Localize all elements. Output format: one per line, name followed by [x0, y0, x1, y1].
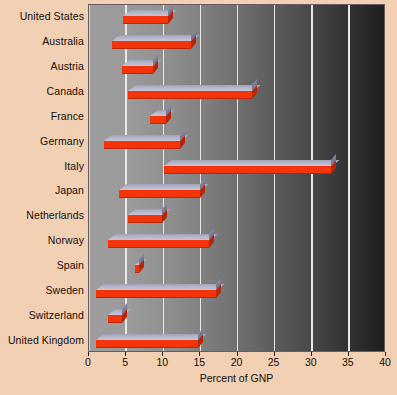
tick-label: 0	[85, 356, 91, 368]
category-label: Spain	[0, 259, 84, 271]
bar	[122, 61, 153, 70]
category-label: Germany	[0, 135, 84, 147]
bar-front-face	[122, 66, 153, 74]
tick-label: 25	[268, 356, 280, 368]
gridline-15	[200, 5, 202, 351]
plot-area	[88, 4, 385, 352]
category-label: Sweden	[0, 284, 84, 296]
category-label: Austria	[0, 60, 84, 72]
category-label: Norway	[0, 234, 84, 246]
tick-label: 10	[156, 356, 168, 368]
bar-front-face	[104, 141, 180, 149]
gridline-25	[274, 5, 276, 351]
tick-label: 5	[122, 356, 128, 368]
bar-front-face	[119, 190, 200, 198]
bar-front-face	[150, 116, 166, 124]
bar-front-face	[128, 215, 162, 223]
category-label: Italy	[0, 160, 84, 172]
tick-label: 15	[194, 356, 206, 368]
bar	[104, 136, 180, 145]
gridline-10	[163, 5, 165, 351]
bar	[96, 285, 216, 294]
gridline-20	[237, 5, 239, 351]
category-label: Switzerland	[0, 309, 84, 321]
bar-front-face	[96, 340, 198, 348]
category-label: Canada	[0, 85, 84, 97]
bar-front-face	[96, 290, 216, 298]
bar	[164, 161, 331, 170]
bar-front-face	[164, 166, 331, 174]
bar	[150, 111, 166, 120]
bar-front-face	[108, 315, 123, 323]
tick-label: 40	[379, 356, 391, 368]
bar	[119, 185, 200, 194]
category-axis: United StatesAustraliaAustriaCanadaFranc…	[0, 4, 84, 352]
category-label: Australia	[0, 35, 84, 47]
bar	[108, 310, 123, 319]
category-label: United States	[0, 10, 84, 22]
bar	[128, 210, 162, 219]
gridline-0	[88, 5, 90, 351]
gridline-5	[125, 5, 127, 351]
category-label: United Kingdom	[0, 334, 84, 346]
gridline-30	[311, 5, 313, 351]
bar-front-face	[108, 240, 209, 248]
chart-container: United StatesAustraliaAustriaCanadaFranc…	[0, 0, 397, 395]
bar	[128, 86, 252, 95]
bar-front-face	[112, 41, 191, 49]
tick-label: 30	[305, 356, 317, 368]
category-label: Netherlands	[0, 209, 84, 221]
gridline-35	[348, 5, 350, 351]
bar	[108, 235, 209, 244]
category-label: Japan	[0, 184, 84, 196]
bar	[123, 11, 168, 20]
value-axis: 0510152025303540	[88, 352, 385, 370]
bar	[96, 335, 198, 344]
category-label: France	[0, 110, 84, 122]
tick-label: 35	[342, 356, 354, 368]
x-axis-title: Percent of GNP	[88, 372, 385, 384]
tick-label: 20	[231, 356, 243, 368]
bar	[112, 36, 191, 45]
bar-front-face	[123, 16, 168, 24]
bar	[135, 260, 139, 269]
bar-front-face	[128, 91, 252, 99]
